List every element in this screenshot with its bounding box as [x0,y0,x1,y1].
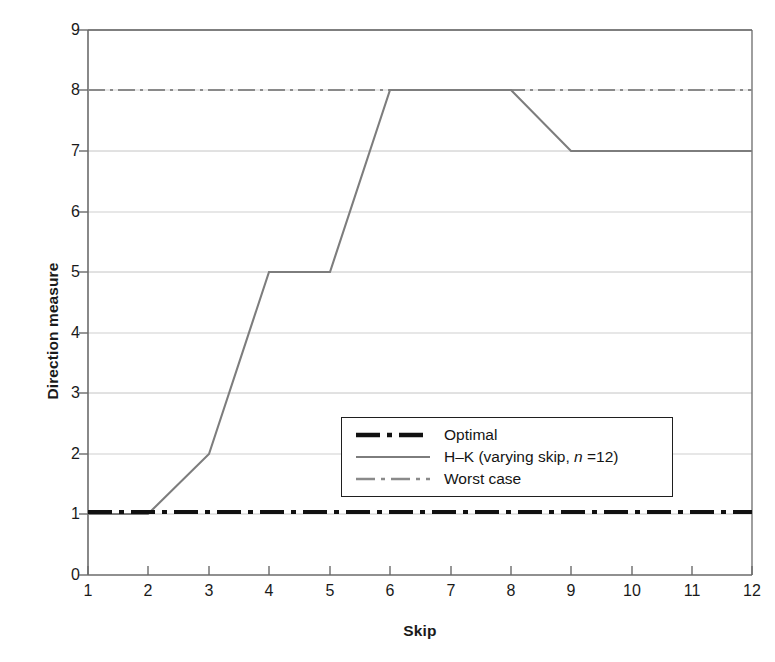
legend-label-hk-pre: H–K (varying skip, [444,448,574,465]
plot-area [0,0,775,662]
x-tick-label-4: 4 [251,583,287,599]
x-tick-label-6: 6 [372,583,408,599]
x-tick-label-9: 9 [553,583,589,599]
legend-label-optimal: Optimal [444,426,497,444]
x-tick-label-10: 10 [614,583,650,599]
legend-item-optimal: Optimal [342,424,672,446]
y-axis [79,30,88,575]
x-tick-label-8: 8 [493,583,529,599]
legend-label-hk-italic: n [574,448,583,465]
chart-container: Direction measure 9 8 7 6 5 4 3 2 1 0 [0,0,775,662]
legend-item-worst-case: Worst case [342,468,672,490]
x-axis-title: Skip [88,622,752,640]
legend-swatch-worst-case-icon [354,472,432,486]
x-tick-label-2: 2 [130,583,166,599]
legend-item-hk: H–K (varying skip, n =12) [342,446,672,468]
x-tick-label-12: 12 [734,583,770,599]
x-tick-label-11: 11 [674,583,710,599]
x-axis-title-text: Skip [403,622,437,639]
legend-swatch-hk-icon [354,450,432,464]
legend-label-hk-post: =12) [583,448,619,465]
x-tick-label-5: 5 [312,583,348,599]
x-axis [88,566,752,575]
legend-label-worst-case: Worst case [444,470,521,488]
x-tick-label-3: 3 [191,583,227,599]
legend: Optimal H–K (varying skip, n =12) Worst … [341,417,673,497]
x-tick-label-1: 1 [70,583,106,599]
legend-swatch-optimal-icon [354,428,432,442]
legend-label-hk: H–K (varying skip, n =12) [444,448,618,466]
x-tick-label-7: 7 [433,583,469,599]
